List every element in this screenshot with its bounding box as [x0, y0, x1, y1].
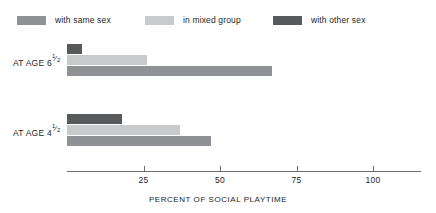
x-axis-tick: [220, 166, 221, 172]
x-axis-tick: [144, 166, 145, 172]
legend-label: in mixed group: [183, 15, 241, 25]
x-axis-tick-label: 50: [215, 175, 225, 185]
x-axis-tick: [297, 166, 298, 172]
chart-legend: with same sex in mixed group with other …: [0, 12, 436, 28]
bar-in-mixed-group: [67, 125, 180, 135]
legend-swatch-icon: [273, 16, 302, 25]
bar-with-same-sex: [67, 136, 211, 146]
legend-swatch-icon: [17, 16, 46, 25]
fraction-denominator: 2: [57, 57, 61, 63]
legend-item-with-same-sex: with same sex: [17, 12, 111, 28]
x-axis-tick-label: 100: [365, 175, 380, 185]
fraction-one-half: 1⁄2: [52, 57, 62, 66]
x-axis-tick: [373, 166, 374, 172]
category-label-text: AT AGE 6: [13, 58, 52, 68]
legend-swatch-icon: [145, 16, 174, 25]
fraction-one-half: 1⁄2: [52, 127, 62, 136]
fraction-denominator: 2: [57, 127, 61, 133]
x-axis-line: [67, 171, 421, 172]
category-label-text: AT AGE 4: [13, 128, 52, 138]
x-axis-title: PERCENT OF SOCIAL PLAYTIME: [0, 195, 436, 204]
category-label-age-6-half: AT AGE 61⁄2: [4, 57, 62, 68]
x-axis-tick-label: 25: [138, 175, 148, 185]
bar-with-same-sex: [67, 66, 272, 76]
bar-with-other-sex: [67, 44, 82, 54]
bar-with-other-sex: [67, 114, 122, 124]
bar-in-mixed-group: [67, 55, 147, 65]
legend-label: with other sex: [311, 15, 366, 25]
legend-label: with same sex: [55, 15, 111, 25]
category-label-age-4-half: AT AGE 41⁄2: [4, 127, 62, 138]
x-axis-tick-label: 75: [291, 175, 301, 185]
bar-chart: with same sex in mixed group with other …: [0, 0, 436, 213]
legend-item-in-mixed-group: in mixed group: [145, 12, 241, 28]
legend-item-with-other-sex: with other sex: [273, 12, 366, 28]
